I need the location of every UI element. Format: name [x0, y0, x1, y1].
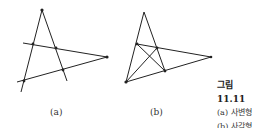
- figure-caption: 그림 11.11 (a) 사변형 (b) 사각형: [217, 78, 262, 128]
- panel-a-label: (a): [50, 107, 62, 117]
- caption-title: 그림 11.11: [217, 78, 262, 106]
- panel-a-diagram: [17, 10, 107, 92]
- panel-b-diagram: [126, 12, 211, 82]
- caption-line-b: (b) 사각형: [217, 120, 262, 128]
- panel-b-points: [124, 43, 212, 84]
- panel-b-label: (b): [150, 107, 163, 117]
- caption-line-a: (a) 사변형: [217, 106, 262, 120]
